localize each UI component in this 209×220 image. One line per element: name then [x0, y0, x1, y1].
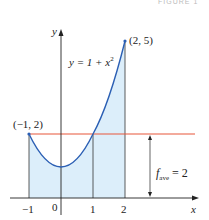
- point-label-right: (2, 5): [129, 34, 153, 47]
- tick-label-neg1: −1: [22, 203, 34, 215]
- avg-sub: ave: [159, 174, 169, 182]
- y-axis-label: y: [51, 25, 57, 37]
- tick-label-1: 1: [90, 203, 96, 215]
- avg-eq: = 2: [169, 166, 188, 180]
- tick-label-2: 2: [121, 203, 127, 215]
- point-label-left: (−1, 2): [13, 118, 43, 131]
- equation-text: y = 1 + x: [68, 56, 110, 68]
- arrow-up-icon: [148, 135, 152, 140]
- tick-label-0: 0: [52, 201, 58, 213]
- curve-equation: y = 1 + x2: [68, 55, 114, 68]
- x-axis-label: x: [190, 203, 196, 215]
- y-axis-arrow-icon: [59, 29, 64, 36]
- point-right: [123, 39, 126, 42]
- equation-exponent: 2: [110, 55, 114, 63]
- x-axis-arrow-icon: [192, 196, 199, 201]
- arrow-down-icon: [148, 192, 152, 197]
- average-label: fave = 2: [156, 166, 188, 182]
- function-average-diagram: y x −1 0 1 2 (2, 5) (−1, 2) y = 1 + x2 f…: [0, 0, 209, 220]
- point-left: [27, 132, 30, 135]
